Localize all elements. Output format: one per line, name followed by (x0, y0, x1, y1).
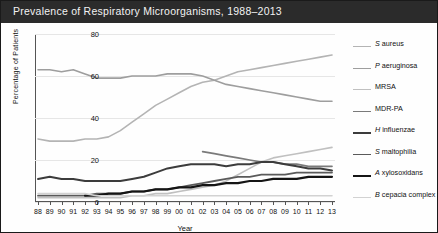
legend-line-swatch (353, 68, 371, 69)
x-tick-mark (109, 202, 110, 205)
x-tick-mark (156, 202, 157, 205)
x-tick-mark (191, 202, 192, 205)
x-tick-mark (320, 202, 321, 205)
legend-line-swatch (353, 111, 371, 112)
legend-line-swatch (353, 132, 371, 134)
x-tick-mark (297, 202, 298, 205)
legend-item-label: H influenzae (375, 126, 437, 135)
legend-line-swatch (353, 89, 371, 90)
x-tick-mark (332, 202, 333, 205)
legend-item[interactable]: S aureus (353, 39, 437, 61)
legend-item[interactable]: H influenzae (353, 125, 437, 147)
x-tick-mark (167, 202, 168, 205)
series-line (38, 173, 332, 196)
legend-item-label: S maltophilia (375, 148, 437, 157)
x-tick-mark (214, 202, 215, 205)
legend-item[interactable]: A xylosoxidans (353, 168, 437, 190)
x-tick-mark (144, 202, 145, 205)
chart-figure: Prevalence of Respiratory Microorganisms… (0, 0, 438, 233)
legend-line-swatch (353, 175, 371, 177)
series-line (38, 55, 332, 141)
series-line (38, 147, 332, 197)
x-axis-label: Year (35, 224, 335, 233)
y-tick-label: 0 (79, 198, 99, 207)
legend-line-swatch (353, 154, 371, 155)
x-tick-mark (62, 202, 63, 205)
legend-item[interactable]: B cepacia complex (353, 190, 437, 212)
series-line (85, 177, 332, 196)
y-tick-label: 60 (79, 72, 99, 81)
legend-item-label: S aureus (375, 40, 437, 49)
x-tick-mark (179, 202, 180, 205)
x-tick-mark (250, 202, 251, 205)
legend-item-label: A xylosoxidans (375, 169, 437, 178)
x-tick-mark (50, 202, 51, 205)
y-axis-label: Percentage of Patients (12, 0, 19, 104)
x-tick-mark (73, 202, 74, 205)
x-tick-mark (261, 202, 262, 205)
y-tick-label: 40 (79, 114, 99, 123)
legend-item-label: MDR-PA (375, 105, 437, 114)
chart-title-bar: Prevalence of Respiratory Microorganisms… (1, 1, 437, 23)
legend-item[interactable]: MDR-PA (353, 104, 437, 126)
x-tick-mark (203, 202, 204, 205)
x-tick-mark (285, 202, 286, 205)
legend-item-label: P aeruginosa (375, 62, 437, 71)
series-line (203, 152, 332, 167)
legend-item[interactable]: P aeruginosa (353, 61, 437, 83)
x-tick-mark (238, 202, 239, 205)
y-tick-label: 20 (79, 156, 99, 165)
x-tick-mark (132, 202, 133, 205)
legend-item-label: B cepacia complex (375, 191, 437, 200)
x-tick-mark (120, 202, 121, 205)
x-tick-label: 13 (325, 208, 339, 215)
legend-item[interactable]: MRSA (353, 82, 437, 104)
y-tick-label: 80 (79, 30, 99, 39)
x-tick-mark (273, 202, 274, 205)
legend-line-swatch (353, 46, 371, 47)
legend-item-label: MRSA (375, 83, 437, 92)
chart-legend: S aureusP aeruginosaMRSAMDR-PAH influenz… (353, 39, 437, 211)
page-title: Prevalence of Respiratory Microorganisms… (13, 5, 282, 17)
legend-item[interactable]: S maltophilia (353, 147, 437, 169)
x-tick-mark (226, 202, 227, 205)
x-tick-mark (308, 202, 309, 205)
legend-line-swatch (353, 197, 371, 198)
x-tick-mark (38, 202, 39, 205)
